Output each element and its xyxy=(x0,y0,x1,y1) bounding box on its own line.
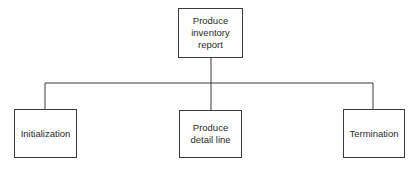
node-initialization: Initialization xyxy=(14,109,77,158)
node-label: Produce inventory report xyxy=(191,15,230,51)
node-label: Initialization xyxy=(21,128,71,140)
node-produce-inventory-report: Produce inventory report xyxy=(178,8,243,58)
node-label: Produce detail line xyxy=(190,122,230,146)
node-label: Termination xyxy=(349,128,398,140)
node-termination: Termination xyxy=(343,109,405,158)
node-produce-detail-line: Produce detail line xyxy=(179,110,242,158)
